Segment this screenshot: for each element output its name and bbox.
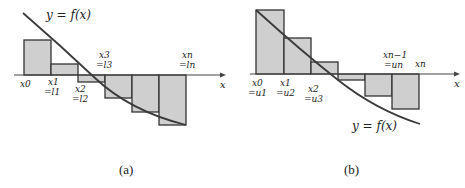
tick-x0-b: x0 bbox=[252, 78, 263, 88]
tick-x2eq-b: =u3 bbox=[304, 94, 323, 104]
x-axis-arrow-b bbox=[454, 72, 460, 77]
tick-x2-b: x2 bbox=[308, 84, 319, 94]
tick-x1-b: x1 bbox=[280, 78, 291, 88]
rect-a-3 bbox=[78, 75, 105, 82]
rect-b-6 bbox=[392, 74, 419, 109]
tick-xn-b: xn bbox=[415, 59, 426, 69]
tick-x2-a: x2 bbox=[75, 84, 86, 94]
caption-b: (b) bbox=[344, 162, 359, 177]
rect-b-2 bbox=[284, 38, 311, 74]
tick-x1-a: x1 bbox=[48, 77, 59, 87]
rect-a-1 bbox=[24, 40, 51, 75]
x-axis-arrow-a bbox=[220, 73, 226, 78]
tick-x2eq-a: =l2 bbox=[72, 94, 88, 104]
rect-b-5 bbox=[365, 74, 392, 96]
tick-x0-a: x0 bbox=[20, 79, 31, 89]
rect-b-1 bbox=[256, 10, 284, 74]
riemann-sum-figure: y = f(x) x x0 x1 =l1 x2 =l2 x3 =l3 xn =l… bbox=[0, 0, 465, 188]
tick-x1eq-a: =l1 bbox=[44, 87, 60, 97]
tick-xn-a: xn bbox=[182, 50, 193, 60]
rect-b-4 bbox=[338, 74, 365, 80]
curve-label-b: y = f(x) bbox=[351, 119, 397, 133]
rect-a-2 bbox=[51, 64, 78, 75]
tick-xn1-b: xn−1 bbox=[383, 50, 407, 60]
tick-x3eq-a: =l3 bbox=[96, 60, 112, 70]
tick-x3-a: x3 bbox=[99, 50, 110, 60]
rect-a-4 bbox=[105, 75, 132, 98]
axis-label-b: x bbox=[454, 78, 460, 89]
tick-xn1eq-b: =un bbox=[384, 60, 403, 70]
tick-xneq-a: =ln bbox=[179, 60, 195, 70]
axis-label-a: x bbox=[220, 79, 226, 90]
panel-a: y = f(x) x x0 x1 =l1 x2 =l2 x3 =l3 xn =l… bbox=[14, 8, 226, 177]
panel-b: y = f(x) x x0 =u1 x1 =u2 x2 =u3 xn−1 =un… bbox=[248, 10, 460, 177]
curve-label-a: y = f(x) bbox=[45, 8, 91, 22]
caption-a: (a) bbox=[119, 162, 133, 177]
rect-b-3 bbox=[311, 62, 338, 74]
tick-x1eq-b: =u2 bbox=[276, 88, 295, 98]
tick-x0eq-b: =u1 bbox=[248, 88, 267, 98]
